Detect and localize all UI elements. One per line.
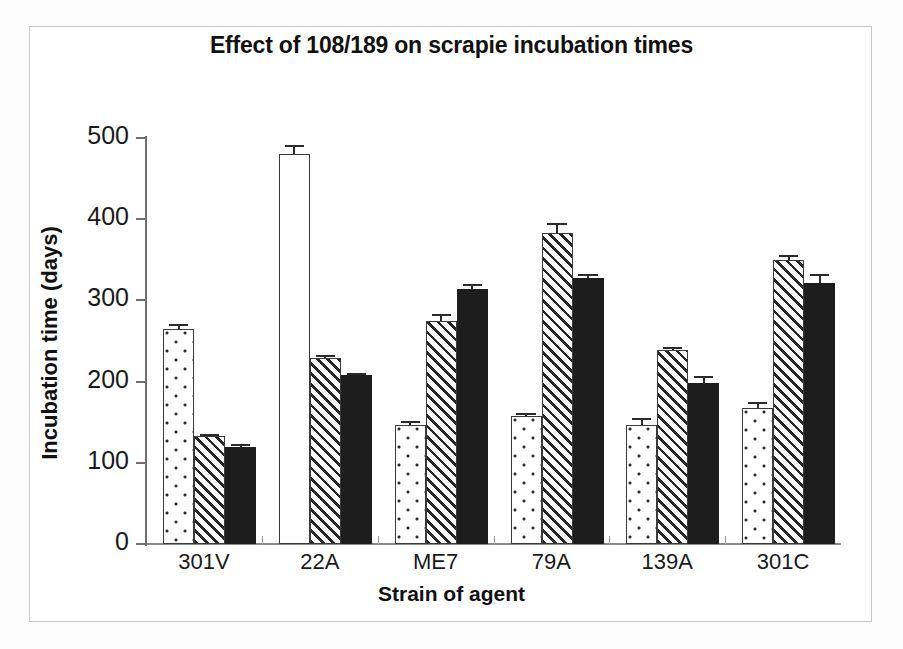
bar-22A-series-1	[279, 154, 310, 544]
bar-ME7-series-2	[426, 321, 457, 544]
error-bar-79A-series-2	[542, 223, 573, 233]
y-tick-label-300: 300	[55, 283, 129, 312]
y-tick-label-200: 200	[55, 365, 129, 394]
error-bar-22A-series-3	[341, 373, 372, 375]
bar-301V-series-2	[194, 436, 225, 544]
error-bar-301V-series-2	[194, 434, 225, 436]
error-bar-301V-series-3	[225, 444, 256, 446]
bar-22A-series-2	[310, 358, 341, 544]
error-bar-79A-series-3	[573, 274, 604, 278]
chart-title: Effect of 108/189 on scrapie incubation …	[0, 32, 903, 59]
bar-79A-series-1	[511, 416, 542, 544]
bar-301C-series-2	[773, 260, 804, 544]
error-stem	[641, 418, 643, 424]
error-stem	[240, 444, 242, 446]
error-bar-ME7-series-3	[457, 284, 488, 289]
error-stem	[556, 223, 558, 233]
bar-139A-series-3	[688, 383, 719, 544]
error-stem	[324, 355, 326, 358]
bar-301V-series-1	[163, 329, 194, 544]
error-stem	[293, 145, 295, 154]
group-separator-22A	[262, 536, 263, 545]
x-tick-label-301C: 301C	[725, 549, 841, 575]
bar-139A-series-1	[626, 425, 657, 544]
x-tick-label-301V: 301V	[146, 549, 262, 575]
bar-301C-series-1	[742, 408, 773, 544]
error-stem	[178, 324, 180, 329]
error-bar-301V-series-1	[163, 324, 194, 329]
y-tick-label-0: 0	[55, 527, 129, 556]
y-axis-title: Incubation time (days)	[37, 133, 63, 553]
y-tick-label-100: 100	[55, 446, 129, 475]
error-stem	[209, 434, 211, 436]
bar-79A-series-2	[542, 233, 573, 544]
x-tick-label-79A: 79A	[494, 549, 610, 575]
group-separator-301C	[725, 536, 726, 545]
bar-301C-series-3	[804, 283, 835, 544]
error-stem	[672, 347, 674, 350]
error-stem	[788, 255, 790, 260]
error-stem	[525, 413, 527, 415]
error-bar-139A-series-3	[688, 376, 719, 383]
error-stem	[355, 373, 357, 375]
error-stem	[471, 284, 473, 289]
bar-301V-series-3	[225, 447, 256, 544]
error-stem	[703, 376, 705, 383]
bar-ME7-series-3	[457, 289, 488, 544]
error-bar-ME7-series-2	[426, 314, 457, 320]
error-stem	[819, 274, 821, 284]
plot-area	[146, 138, 841, 544]
error-bar-139A-series-2	[657, 347, 688, 350]
group-separator-ME7	[378, 536, 379, 545]
error-bar-139A-series-1	[626, 418, 657, 424]
error-stem	[409, 421, 411, 424]
group-separator-79A	[494, 536, 495, 545]
bar-79A-series-3	[573, 278, 604, 544]
x-tick-label-22A: 22A	[262, 549, 378, 575]
error-bar-79A-series-1	[511, 413, 542, 415]
error-stem	[440, 314, 442, 320]
error-stem	[757, 402, 759, 408]
x-axis-title: Strain of agent	[0, 582, 903, 606]
error-stem	[587, 274, 589, 278]
bar-22A-series-3	[341, 375, 372, 544]
y-tick-label-400: 400	[55, 202, 129, 231]
x-tick-label-ME7: ME7	[378, 549, 494, 575]
bar-ME7-series-1	[395, 425, 426, 544]
y-tick-label-500: 500	[55, 121, 129, 150]
x-tick-label-139A: 139A	[609, 549, 725, 575]
bar-139A-series-2	[657, 350, 688, 544]
error-bar-22A-series-2	[310, 355, 341, 358]
figure-canvas: Effect of 108/189 on scrapie incubation …	[0, 0, 903, 649]
error-bar-ME7-series-1	[395, 421, 426, 424]
error-bar-301C-series-1	[742, 402, 773, 408]
error-bar-301C-series-3	[804, 274, 835, 284]
group-separator-139A	[609, 536, 610, 545]
error-bar-301C-series-2	[773, 255, 804, 260]
error-bar-22A-series-1	[279, 145, 310, 154]
